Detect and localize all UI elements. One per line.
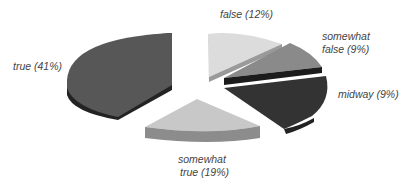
- label-somewhat-false-line2: false (9%): [322, 43, 369, 56]
- label-midway: midway (9%): [338, 88, 399, 101]
- label-true: true (41%): [13, 60, 62, 73]
- label-somewhat-true-line2: true (19%): [180, 166, 229, 179]
- slice-true: [67, 33, 172, 120]
- label-somewhat-false-line1: somewhat: [322, 30, 370, 43]
- label-somewhat-true-line1: somewhat: [178, 153, 226, 166]
- label-false: false (12%): [220, 8, 273, 21]
- slice-somewhat-true: [145, 99, 260, 142]
